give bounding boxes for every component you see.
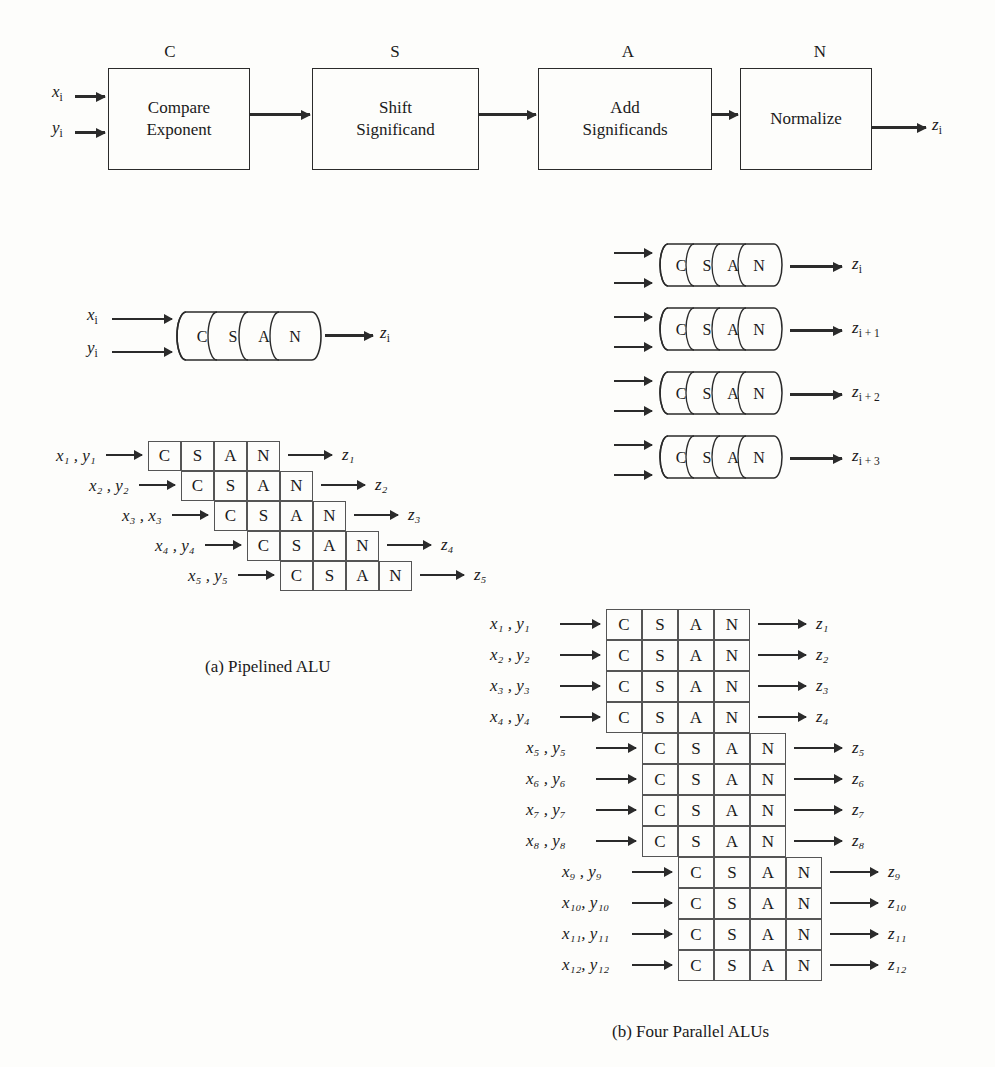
- parallel-alu-cylinder: CSAN: [656, 367, 786, 423]
- timing-cell-s: S: [247, 501, 280, 531]
- arrow-s-to-a: [478, 113, 536, 116]
- timing-cell-s: S: [181, 441, 214, 471]
- row-output-arrow: [354, 514, 398, 516]
- cyl-b-input-y-arrow: [614, 474, 652, 476]
- cyl-b-seg-n: N: [753, 257, 765, 274]
- timing-cell-a: A: [714, 733, 750, 764]
- timing-cell-s: S: [714, 919, 750, 950]
- cyl-a-output-arrow: [325, 334, 373, 337]
- cyl-a-input-y-arrow: [112, 351, 172, 353]
- row-input-label: x₂ , y₂: [89, 476, 129, 496]
- cyl-b-output-arrow: [790, 457, 842, 460]
- timing-cell-n: N: [750, 795, 786, 826]
- row-input-arrow: [560, 685, 600, 687]
- top-input-x-arrow: [75, 95, 105, 98]
- row-output-label: z₁₀: [888, 893, 906, 913]
- top-output-arrow: [871, 126, 926, 129]
- row-output-label: z₁₁: [888, 924, 906, 944]
- row-output-arrow: [830, 933, 878, 935]
- timing-cell-n: N: [714, 609, 750, 640]
- timing-cell-c: C: [280, 561, 313, 591]
- row-output-label: z₁₂: [888, 955, 906, 975]
- row-output-label: z₄: [441, 535, 454, 555]
- cyl-b-input-y-arrow: [614, 410, 652, 412]
- cyl-a-seg-a: A: [258, 328, 270, 345]
- arrow-a-to-n: [711, 113, 738, 116]
- timing-cell-s: S: [642, 671, 678, 702]
- block-line1: Normalize: [770, 108, 842, 130]
- block-label-n: N: [790, 42, 850, 62]
- row-output-arrow: [794, 747, 842, 749]
- timing-cell-n: N: [280, 471, 313, 501]
- row-input-arrow: [596, 778, 636, 780]
- timing-cell-c: C: [678, 888, 714, 919]
- cyl-b-seg-n: N: [753, 449, 765, 466]
- row-input-arrow: [139, 484, 175, 486]
- cyl-b-input-x-arrow: [614, 252, 652, 254]
- timing-cell-s: S: [678, 764, 714, 795]
- row-input-label: x₃ , y₃: [490, 676, 530, 696]
- row-output-label: z₁: [342, 445, 355, 465]
- timing-cell-n: N: [750, 826, 786, 857]
- timing-cell-a: A: [750, 919, 786, 950]
- caption-part-a: (a) Pipelined ALU: [205, 657, 331, 677]
- cyl-a-input-x-arrow: [112, 318, 172, 320]
- timing-cell-a: A: [313, 531, 346, 561]
- cyl-a-seg-n: N: [289, 328, 301, 345]
- timing-cell-n: N: [346, 531, 379, 561]
- timing-cell-c: C: [148, 441, 181, 471]
- row-output-label: z₃: [816, 676, 829, 696]
- row-output-arrow: [420, 574, 464, 576]
- parallel-alu-cylinder: CSAN: [656, 239, 786, 295]
- row-input-label: x₁ , y₁: [490, 614, 530, 634]
- top-input-y-arrow: [75, 131, 105, 134]
- timing-cell-n: N: [750, 733, 786, 764]
- timing-cell-c: C: [606, 609, 642, 640]
- row-input-label: x₄ , y₄: [490, 707, 530, 727]
- timing-cell-s: S: [214, 471, 247, 501]
- top-input-x-label: xi: [52, 82, 63, 103]
- row-output-label: z₂: [816, 645, 829, 665]
- timing-cell-n: N: [750, 764, 786, 795]
- row-output-label: z₉: [888, 862, 901, 882]
- row-input-label: x₁₂, y₁₂: [562, 955, 609, 975]
- row-input-arrow: [596, 840, 636, 842]
- cyl-a-input-y-label: yi: [87, 338, 98, 359]
- row-output-arrow: [758, 623, 806, 625]
- row-output-label: z₈: [852, 831, 865, 851]
- block-label-c: C: [140, 42, 200, 62]
- row-output-label: z₂: [375, 475, 388, 495]
- block-line2: Significands: [583, 119, 668, 141]
- cyl-b-seg-s: S: [703, 257, 712, 274]
- cyl-b-output-z-label: zi + 3: [852, 446, 880, 467]
- block-line2: Exponent: [146, 119, 211, 141]
- parallel-alu-cylinder: CSAN: [656, 303, 786, 359]
- timing-cell-a: A: [714, 795, 750, 826]
- cyl-b-output-arrow: [790, 393, 842, 396]
- timing-cell-n: N: [379, 561, 412, 591]
- timing-cell-n: N: [714, 671, 750, 702]
- row-input-arrow: [632, 871, 672, 873]
- row-input-arrow: [238, 574, 274, 576]
- row-output-arrow: [758, 716, 806, 718]
- row-input-arrow: [632, 902, 672, 904]
- timing-cell-c: C: [214, 501, 247, 531]
- timing-cell-n: N: [714, 640, 750, 671]
- cyl-b-seg-c: C: [676, 385, 687, 402]
- row-input-arrow: [632, 964, 672, 966]
- cyl-b-output-z-label: zi + 1: [852, 318, 880, 339]
- row-output-arrow: [794, 778, 842, 780]
- row-output-arrow: [758, 654, 806, 656]
- block-line1: Add: [583, 97, 668, 119]
- row-input-label: x₁₀, y₁₀: [562, 893, 609, 913]
- row-output-label: z₅: [474, 565, 487, 585]
- timing-cell-n: N: [786, 888, 822, 919]
- timing-cell-s: S: [642, 640, 678, 671]
- cyl-b-output-z-label: zi + 2: [852, 382, 880, 403]
- timing-cell-a: A: [346, 561, 379, 591]
- block-compare-exponent: Compare Exponent: [108, 68, 250, 170]
- cyl-a-input-x-label: xi: [87, 305, 98, 326]
- timing-cell-a: A: [714, 764, 750, 795]
- timing-cell-a: A: [247, 471, 280, 501]
- cyl-b-input-y-arrow: [614, 282, 652, 284]
